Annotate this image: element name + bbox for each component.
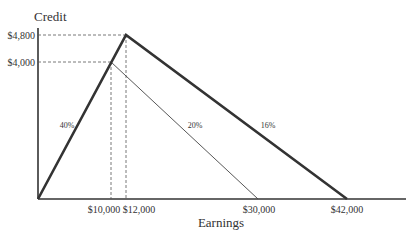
- thick-schedule-line: [38, 35, 347, 199]
- credit-chart: Credit $4,800 $4,000 $10,000 $12,000 $30…: [0, 0, 419, 237]
- x-tick-30000: $30,000: [243, 204, 276, 215]
- thin-phase-out-line: [111, 62, 258, 199]
- x-tick-42000: $42,000: [331, 204, 364, 215]
- rate-label-40: 40%: [60, 121, 75, 130]
- x-tick-10000: $10,000: [88, 204, 121, 215]
- y-tick-4000: $4,000: [8, 57, 36, 68]
- rate-label-16: 16%: [261, 121, 276, 130]
- x-axis-title: Earnings: [198, 215, 244, 230]
- rate-label-20: 20%: [188, 121, 203, 130]
- y-axis-title: Credit: [34, 9, 67, 24]
- x-tick-12000: $12,000: [123, 204, 156, 215]
- y-tick-4800: $4,800: [8, 30, 36, 41]
